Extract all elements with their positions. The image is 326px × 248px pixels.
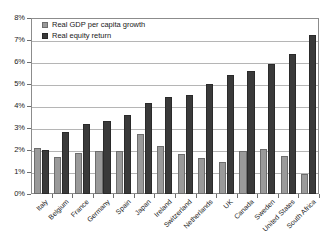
y-axis: 0%1%2%3%4%5%6%7%8% (0, 0, 31, 248)
bar-group (216, 18, 237, 194)
bars-layer (31, 18, 319, 194)
bar-equity (42, 150, 49, 194)
y-tick-mark (27, 194, 31, 195)
bar-group (237, 18, 258, 194)
bar-gdp (34, 148, 41, 194)
bar-equity (289, 54, 296, 194)
bar-equity (145, 103, 152, 194)
bar-group (298, 18, 319, 194)
bar-group (31, 18, 52, 194)
bar-equity (247, 71, 254, 194)
y-tick-label: 7% (14, 36, 25, 44)
x-axis-labels: ItalyBelgiumFranceGermanySpainJapanIrela… (31, 198, 319, 248)
bar-group (257, 18, 278, 194)
x-tick-label: UK (223, 198, 236, 211)
bar-group (154, 18, 175, 194)
y-tick-label: 6% (14, 58, 25, 66)
bar-equity (165, 97, 172, 194)
bar-group (72, 18, 93, 194)
legend-swatch-icon-equity (42, 33, 48, 39)
bar-equity (62, 132, 69, 194)
bar-group (113, 18, 134, 194)
bar-group (52, 18, 73, 194)
bar-group (196, 18, 217, 194)
bar-equity (186, 95, 193, 194)
legend-item-gdp: Real GDP per capita growth (42, 20, 145, 29)
y-tick-label: 0% (14, 190, 25, 198)
y-tick-label: 1% (14, 168, 25, 176)
legend-swatch-icon-gdp (42, 22, 48, 28)
bar-group (134, 18, 155, 194)
y-tick-label: 3% (14, 124, 25, 132)
chart-container: 0%1%2%3%4%5%6%7%8% ItalyBelgiumFranceGer… (0, 0, 326, 248)
x-tick-label: Japan (134, 198, 153, 217)
legend-label-equity: Real equity return (52, 31, 111, 40)
y-tick-label: 5% (14, 80, 25, 88)
y-tick-label: 4% (14, 102, 25, 110)
bar-group (93, 18, 114, 194)
bar-equity (103, 121, 110, 194)
chart-legend: Real GDP per capita growth Real equity r… (42, 20, 145, 42)
y-tick-label: 8% (14, 14, 25, 22)
bar-equity (268, 64, 275, 194)
legend-item-equity: Real equity return (42, 31, 145, 40)
bar-group (175, 18, 196, 194)
x-tick-label: Spain (114, 198, 132, 216)
bar-gdp (239, 151, 246, 194)
bar-group (278, 18, 299, 194)
bar-gdp (54, 157, 61, 194)
y-tick-label: 2% (14, 146, 25, 154)
legend-label-gdp: Real GDP per capita growth (52, 20, 145, 29)
x-tick-label: Italy (35, 198, 50, 213)
bar-equity (309, 35, 316, 195)
